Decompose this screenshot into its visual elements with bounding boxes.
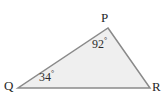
vertex-label-r: R [152, 80, 161, 93]
angle-p-value: 92 [92, 37, 104, 51]
angle-q-value: 34 [39, 70, 51, 84]
angle-label-q: 34° [39, 70, 54, 83]
geometry-figure: P Q R 92° 34° [0, 0, 165, 100]
triangle-polygon [18, 28, 150, 88]
angle-p-degree-symbol: ° [104, 36, 107, 45]
angle-label-p: 92° [92, 37, 107, 50]
vertex-label-q: Q [4, 79, 13, 92]
angle-q-degree-symbol: ° [51, 69, 54, 78]
triangle-shape [0, 0, 165, 100]
vertex-label-p: P [101, 11, 108, 24]
